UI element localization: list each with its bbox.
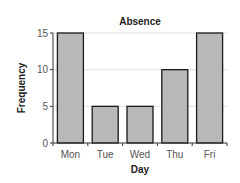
x-tick-label: Thu	[166, 149, 183, 160]
bar-mon	[57, 33, 83, 143]
bar-tue	[92, 106, 118, 143]
y-tick-label: 0	[42, 138, 48, 149]
y-tick-labels: 051015	[37, 28, 49, 149]
x-tick-label: Wed	[130, 149, 150, 160]
x-axis-label: Day	[131, 164, 150, 175]
x-tick-labels: MonTueWedThuFri	[61, 149, 216, 160]
bar-thu	[162, 70, 188, 143]
y-tick-label: 10	[37, 64, 49, 75]
bar-chart: Absence 051015 MonTueWedThuFri Day Frequ…	[0, 0, 240, 183]
x-tick-label: Fri	[204, 149, 216, 160]
y-tick-label: 5	[42, 101, 48, 112]
bar-fri	[197, 33, 223, 143]
y-axis-label: Frequency	[16, 62, 27, 113]
y-tick-label: 15	[37, 28, 49, 39]
chart-title: Absence	[119, 16, 161, 27]
x-tick-label: Tue	[97, 149, 114, 160]
x-tick-label: Mon	[61, 149, 80, 160]
bar-wed	[127, 106, 153, 143]
bars	[57, 33, 222, 143]
